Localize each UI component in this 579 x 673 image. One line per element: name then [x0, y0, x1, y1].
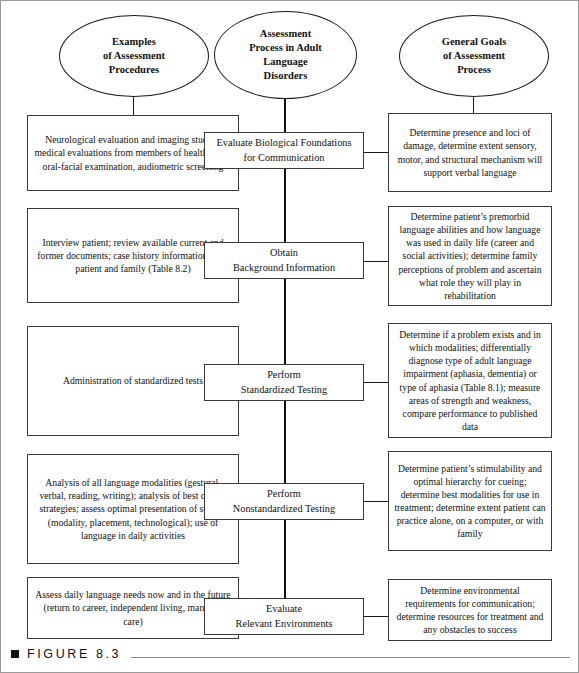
connector-right-row-2	[364, 261, 388, 262]
header-ellipse-examples-label: Examples of Assessment Procedures	[103, 35, 165, 77]
right-box-row-5: Determine environmental requirements for…	[388, 579, 552, 641]
right-box-row-4-text: Determine patient’s stimulability and op…	[394, 462, 546, 541]
connector-spine-1-2	[284, 169, 286, 242]
right-box-row-1-text: Determine presence and loci of damage, d…	[394, 126, 546, 178]
header-ellipse-general-goals-label: General Goals of Assessment Process	[442, 35, 506, 77]
header-ellipse-assessment-process: Assessment Process in Adult Language Dis…	[214, 11, 357, 99]
right-box-row-1: Determine presence and loci of damage, d…	[388, 113, 552, 192]
header-ellipse-general-goals: General Goals of Assessment Process	[399, 15, 549, 97]
right-box-row-2-text: Determine patient’s premorbid language a…	[394, 210, 546, 302]
center-box-row-4: Perform Nonstandardized Testing	[204, 483, 364, 520]
connector-spine-4-5	[284, 520, 286, 598]
center-box-row-1: Evaluate Biological Foundations for Comm…	[204, 132, 364, 169]
left-box-row-5-text: Assess daily language needs now and in t…	[33, 588, 233, 627]
connector-right-row-5	[364, 616, 388, 617]
center-box-row-2-text: Obtain Background Information	[233, 246, 335, 274]
right-box-row-3: Determine if a problem exists and in whi…	[388, 323, 552, 438]
connector-ellipse-left-stem	[133, 97, 134, 115]
right-box-row-5-text: Determine environmental requirements for…	[394, 584, 546, 636]
left-box-row-3-text: Administration of standardized tests	[63, 374, 203, 387]
connector-right-row-1	[364, 152, 388, 153]
right-box-row-3-text: Determine if a problem exists and in whi…	[394, 328, 546, 433]
center-box-row-2: Obtain Background Information	[204, 242, 364, 279]
center-box-row-5: Evaluate Relevant Environments	[204, 598, 364, 635]
connector-spine-2-3	[284, 279, 286, 364]
figure-caption-label: FIGURE 8.3	[27, 647, 121, 661]
left-box-row-1-text: Neurological evaluation and imaging stud…	[33, 133, 233, 172]
right-box-row-4: Determine patient’s stimulability and op…	[388, 451, 552, 551]
left-box-row-2-text: Interview patient; review available curr…	[33, 236, 233, 275]
header-ellipse-assessment-process-label: Assessment Process in Adult Language Dis…	[249, 27, 322, 82]
center-box-row-5-text: Evaluate Relevant Environments	[236, 602, 333, 630]
connector-right-row-4	[364, 501, 388, 502]
connector-spine-3-4	[284, 401, 286, 483]
center-box-row-3-text: Perform Standardized Testing	[241, 368, 327, 396]
square-bullet-icon	[11, 650, 19, 658]
figure-caption: FIGURE 8.3	[11, 641, 570, 667]
header-ellipse-examples: Examples of Assessment Procedures	[59, 15, 209, 97]
connector-ellipse-center-stem	[284, 99, 286, 132]
center-box-row-4-text: Perform Nonstandardized Testing	[233, 487, 335, 515]
center-box-row-1-text: Evaluate Biological Foundations for Comm…	[217, 136, 352, 164]
connector-right-row-3	[364, 382, 388, 383]
figure-page: Examples of Assessment Procedures Assess…	[0, 0, 579, 673]
caption-rule	[131, 657, 570, 658]
left-box-row-4-text: Analysis of all language modalities (ges…	[33, 476, 233, 541]
right-box-row-2: Determine patient’s premorbid language a…	[388, 206, 552, 306]
center-box-row-3: Perform Standardized Testing	[204, 364, 364, 401]
